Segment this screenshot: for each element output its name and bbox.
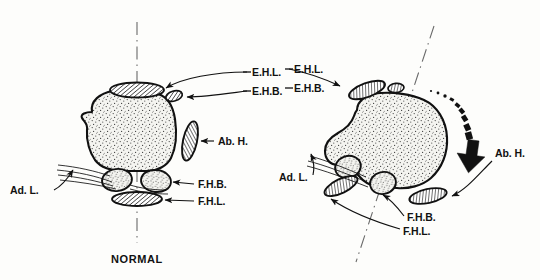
canvas-background	[0, 0, 540, 280]
left-label-fhl: F.H.L.	[198, 195, 226, 207]
right-label-ehl: E.H.L.	[294, 63, 323, 75]
left-label-abh: Ab. H.	[218, 135, 248, 147]
left-fhl-structure	[112, 192, 162, 206]
left-label-fhb: F.H.B.	[198, 178, 227, 190]
left-label-ehb: E.H.B.	[252, 85, 283, 97]
right-label-fhl: F.H.L.	[403, 225, 431, 237]
right-label-ehb: E.H.B.	[294, 82, 325, 94]
anatomical-diagram: E.H.L. E.H.B. Ab. H. F.H.B. F.H.L. Ad. L…	[0, 0, 540, 280]
left-ehl-structure	[110, 83, 164, 98]
right-label-adl: Ad. L.	[279, 171, 308, 183]
left-label-adl: Ad. L.	[10, 184, 39, 196]
left-metatarsal-head	[82, 90, 176, 171]
left-label-ehl: E.H.L.	[252, 66, 281, 78]
right-label-fhb: F.H.B.	[407, 211, 436, 223]
normal-caption: NORMAL	[111, 253, 163, 265]
diagram-page: E.H.L. E.H.B. Ab. H. F.H.B. F.H.L. Ad. L…	[0, 0, 540, 280]
right-label-abh: Ab. H.	[495, 147, 525, 159]
